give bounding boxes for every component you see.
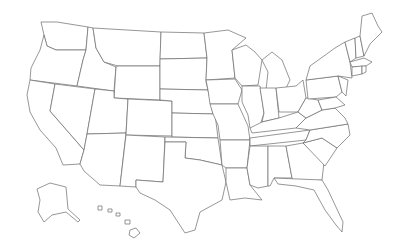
state-ct: [352, 66, 362, 76]
state-ar: [220, 140, 250, 168]
state-md: [318, 97, 345, 110]
state-hi-1: [98, 206, 102, 210]
state-az: [80, 133, 126, 186]
state-mi: [262, 52, 290, 90]
state-sd: [160, 58, 208, 90]
state-mt: [93, 28, 161, 66]
state-wi: [232, 45, 262, 86]
state-hi-2: [108, 209, 112, 212]
state-hi-4: [125, 220, 130, 224]
state-hi-5: [129, 228, 140, 238]
state-ia: [206, 79, 242, 104]
state-me: [360, 13, 382, 56]
state-wa: [41, 22, 88, 50]
state-ak: [37, 183, 80, 222]
state-ny: [306, 42, 352, 80]
state-hi-3: [116, 213, 120, 216]
us-states-map: [0, 0, 403, 251]
state-ks: [172, 113, 218, 138]
state-co: [126, 99, 172, 136]
state-nm: [120, 135, 165, 187]
state-in: [260, 88, 279, 122]
state-ri: [362, 66, 366, 74]
state-wy: [114, 66, 160, 100]
state-nd: [160, 32, 207, 59]
state-fl: [274, 178, 343, 232]
state-ms: [247, 146, 268, 188]
